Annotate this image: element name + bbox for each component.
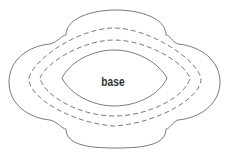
base-label: base (100, 75, 126, 89)
